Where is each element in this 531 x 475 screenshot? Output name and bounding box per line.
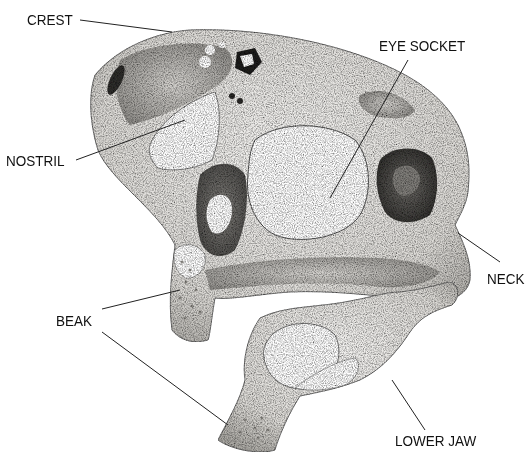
leader-line-lower-jaw — [392, 380, 425, 430]
skull-illustration — [0, 0, 531, 475]
label-neck: NECK — [487, 270, 525, 287]
label-crest: CREST — [27, 11, 73, 28]
leader-line-beak-lower — [102, 332, 228, 425]
skull-diagram: CREST EYE SOCKET NOSTRIL BEAK NECK LOWER… — [0, 0, 531, 475]
label-lower-jaw: LOWER JAW — [395, 432, 476, 449]
label-beak: BEAK — [56, 312, 92, 329]
label-eye-socket: EYE SOCKET — [379, 37, 465, 54]
lower-jaw — [218, 282, 458, 452]
leader-line-crest — [80, 20, 172, 32]
label-nostril: NOSTRIL — [6, 152, 65, 169]
leader-line-beak-upper — [102, 290, 180, 309]
